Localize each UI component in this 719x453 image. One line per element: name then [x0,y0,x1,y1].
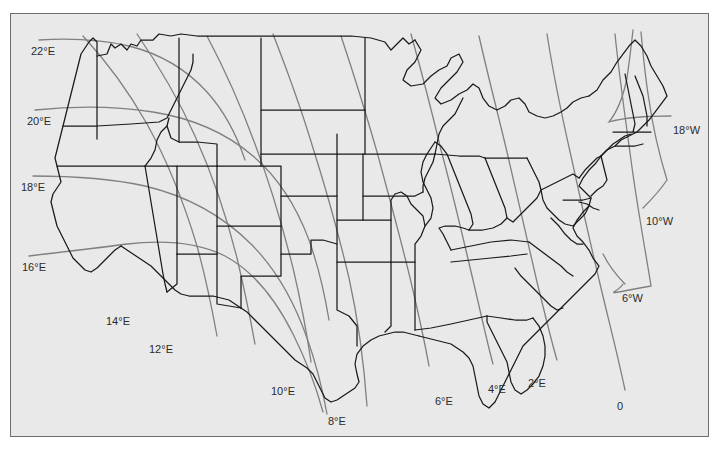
state-border-sd-mn [337,110,365,154]
declination-label-20E: 20°E [27,115,51,127]
isogonic-line-18E [33,176,327,414]
declination-label-10W: 10°W [646,215,673,227]
declination-label-14E: 14°E [106,315,130,327]
state-border-oh-pa-wv [541,174,579,190]
state-border-ar-ms [391,192,425,262]
state-border-oh-mi [507,158,541,222]
state-border-tn-ga-al [451,254,527,262]
state-border-ks-mo [337,154,363,220]
state-border-va-nc [551,218,583,244]
declination-label-2E: 2°E [528,377,546,389]
pacific-coast [51,38,121,272]
declination-label-12E: 12°E [149,343,173,355]
declination-map-figure: 22°E 20°E 18°E 16°E 14°E 12°E 10°E 8°E 6… [0,0,719,453]
map-frame: 22°E 20°E 18°E 16°E 14°E 12°E 10°E 8°E 6… [10,13,709,437]
declination-label-10E: 10°E [271,385,295,397]
state-border-id-mt [145,118,169,166]
state-border-id-wy [167,126,217,166]
state-border-wi-mn [435,98,463,154]
state-border-md-pa [563,198,591,200]
declination-label-22E: 22°E [31,45,55,57]
state-border-nh-me [635,76,647,126]
state-border-nv-ut [145,166,177,254]
declination-label-18E: 18°E [21,181,45,193]
map-canvas [11,14,708,436]
state-border-al-fl [415,316,487,330]
isogonic-lines [29,30,671,414]
isogonic-line-2E [479,36,557,360]
state-border-co-ks [261,166,281,226]
declination-label-6E: 6°E [435,395,453,407]
declination-label-16E: 16°E [22,261,46,273]
isogonic-line-10E [207,36,311,362]
gulf-coast [241,308,419,402]
state-border-ca-nv [145,166,167,292]
state-border-pa-ny [579,156,601,178]
state-border-ks-ne [281,134,337,196]
state-border-ky-tn [451,240,529,250]
isogonic-line-6W-tail [603,254,625,284]
declination-label-0: 0 [617,400,623,412]
declination-label-8E: 8°E [328,415,346,427]
state-border-ga-fl [487,316,533,320]
declination-label-4E: 4°E [488,383,506,395]
declination-label-6W: 6°W [622,292,643,304]
state-border-ia-mo [363,192,423,196]
atlantic-coast [419,156,601,408]
state-border-ok-ar [337,220,391,262]
isogonic-line-18W [609,30,671,122]
isogonic-line-10W [641,32,667,208]
state-border-la-ms [385,262,391,332]
state-border-wv-va [541,190,589,226]
state-border-nc-sc [529,242,573,276]
declination-label-18W: 18°W [673,124,700,136]
state-border-in-oh [469,158,507,230]
